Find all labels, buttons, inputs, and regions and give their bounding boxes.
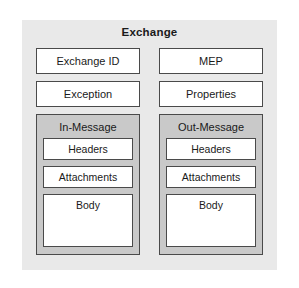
- in-message-headers-box: Headers: [43, 138, 133, 160]
- in-message-attachments-label: Attachments: [59, 171, 117, 183]
- clipped-caption-text: [6, 0, 293, 3]
- in-message-title: In-Message: [43, 119, 133, 138]
- mep-label: MEP: [199, 55, 223, 67]
- exchange-id-box: Exchange ID: [36, 48, 140, 74]
- out-message-headers-box: Headers: [166, 138, 256, 160]
- mep-box: MEP: [159, 48, 263, 74]
- in-message-body-box: Body: [43, 194, 133, 247]
- exception-label: Exception: [64, 88, 112, 100]
- out-message-group: Out-Message Headers Attachments Body: [159, 114, 263, 255]
- exchange-title: Exchange: [22, 26, 277, 38]
- out-column: MEP Properties Out-Message Headers Attac…: [159, 48, 263, 255]
- out-message-title: Out-Message: [166, 119, 256, 138]
- out-message-headers-label: Headers: [191, 143, 231, 155]
- in-message-body-label: Body: [76, 199, 100, 211]
- in-message-group: In-Message Headers Attachments Body: [36, 114, 140, 255]
- out-message-attachments-box: Attachments: [166, 166, 256, 188]
- exchange-panel: Exchange Exchange ID Exception In-Messag…: [22, 20, 277, 270]
- out-message-attachments-label: Attachments: [182, 171, 240, 183]
- exception-box: Exception: [36, 81, 140, 107]
- in-message-headers-label: Headers: [68, 143, 108, 155]
- out-message-body-label: Body: [199, 199, 223, 211]
- properties-label: Properties: [186, 88, 236, 100]
- in-message-attachments-box: Attachments: [43, 166, 133, 188]
- in-column: Exchange ID Exception In-Message Headers…: [36, 48, 140, 255]
- exchange-id-label: Exchange ID: [57, 55, 120, 67]
- out-message-body-box: Body: [166, 194, 256, 247]
- properties-box: Properties: [159, 81, 263, 107]
